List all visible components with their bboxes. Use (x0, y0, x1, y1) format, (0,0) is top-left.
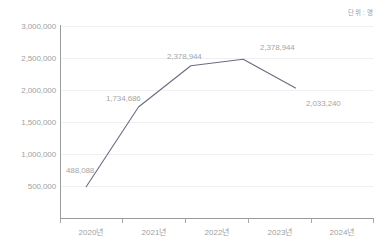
series-polyline (86, 59, 295, 187)
line-chart: 단위 : 명 3,000,000 2,500,000 2,000,000 1,5… (0, 0, 383, 252)
point-label-2021: 1,734,686 (106, 94, 141, 103)
series-line (0, 0, 383, 252)
point-label-2024: 2,033,240 (306, 99, 341, 108)
point-label-2022: 2,378,944 (167, 52, 202, 61)
point-label-2020: 488,088 (66, 166, 94, 175)
point-label-2023: 2,378,944 (260, 43, 295, 52)
